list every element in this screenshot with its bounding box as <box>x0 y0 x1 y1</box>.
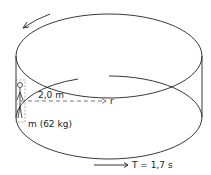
cylinder-bottom-back-right <box>109 76 202 117</box>
curved-arrow-icon <box>23 14 50 28</box>
rotor-diagram: 2,0 m r m (62 kg) T = 1,7 s <box>0 0 211 175</box>
stick-figure-icon <box>17 83 23 119</box>
mass-label: m (62 kg) <box>28 119 72 129</box>
axis-label: r <box>110 96 114 106</box>
period-label: T = 1,7 s <box>131 160 173 170</box>
right-arrow-icon <box>94 163 128 168</box>
cylinder-top-rim <box>16 14 202 98</box>
radius-label: 2,0 m <box>38 90 64 100</box>
